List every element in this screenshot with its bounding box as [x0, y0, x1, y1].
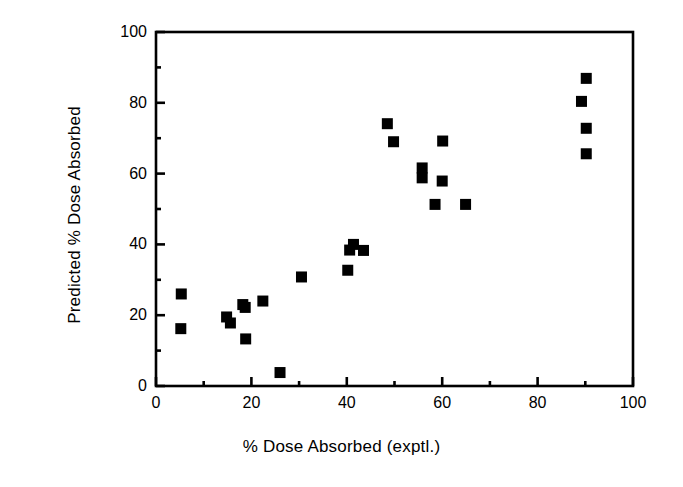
data-point	[382, 118, 393, 129]
data-point	[348, 239, 359, 250]
y-tick-label: 0	[138, 377, 147, 395]
data-point	[176, 288, 187, 299]
data-point	[257, 296, 268, 307]
data-point	[437, 136, 448, 147]
data-point	[430, 199, 441, 210]
y-axis-title: Predicted % Dose Absorbed	[65, 35, 85, 395]
plot-canvas	[0, 0, 683, 487]
data-point	[342, 265, 353, 276]
data-point	[460, 199, 471, 210]
data-point	[240, 333, 251, 344]
data-point	[388, 136, 399, 147]
data-point	[581, 123, 592, 134]
x-tick-label: 0	[152, 394, 161, 412]
data-point	[417, 172, 428, 183]
data-point	[581, 148, 592, 159]
data-point	[576, 96, 587, 107]
y-tick-label: 80	[129, 94, 147, 112]
plot-frame	[156, 32, 633, 386]
y-tick-label: 100	[120, 23, 147, 41]
data-point	[225, 317, 236, 328]
x-tick-label: 40	[338, 394, 356, 412]
x-tick-label: 20	[242, 394, 260, 412]
data-point	[175, 323, 186, 334]
y-tick-label: 40	[129, 235, 147, 253]
data-point	[240, 302, 251, 313]
x-axis-title: % Dose Absorbed (exptl.)	[0, 437, 683, 457]
y-tick-label: 60	[129, 165, 147, 183]
data-point	[417, 162, 428, 173]
x-tick-label: 60	[433, 394, 451, 412]
data-point	[296, 271, 307, 282]
y-tick-label: 20	[129, 306, 147, 324]
scatter-plot-figure: 020406080100020406080100 % Dose Absorbed…	[0, 0, 683, 487]
data-point	[358, 245, 369, 256]
x-tick-label: 80	[529, 394, 547, 412]
data-point	[437, 176, 448, 187]
data-point	[275, 367, 286, 378]
data-point	[581, 73, 592, 84]
x-tick-label: 100	[620, 394, 647, 412]
